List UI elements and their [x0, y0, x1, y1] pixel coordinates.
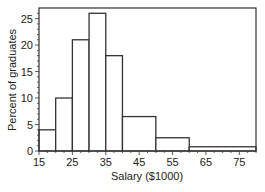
x-tick-label: 25 [66, 156, 78, 168]
y-tick-label: 5 [27, 119, 33, 131]
x-axis: 15253545556575 [33, 151, 256, 168]
y-axis-label: Percent of graduates [6, 28, 18, 131]
y-tick-label: 10 [21, 92, 33, 104]
x-tick-label: 65 [200, 156, 212, 168]
histogram-bar [156, 138, 189, 151]
y-axis: 0510152025 [21, 13, 39, 157]
histogram-bar [39, 130, 56, 151]
y-tick-label: 25 [21, 13, 33, 25]
x-axis-label: Salary ($1000) [111, 170, 183, 182]
x-tick-label: 55 [166, 156, 178, 168]
x-tick-label: 45 [133, 156, 145, 168]
histogram-bar [122, 117, 155, 151]
histogram-bar [72, 40, 89, 151]
y-tick-label: 15 [21, 66, 33, 78]
y-tick-label: 20 [21, 39, 33, 51]
histogram-bar [89, 13, 106, 151]
histogram-bars [39, 13, 256, 151]
x-tick-label: 75 [233, 156, 245, 168]
histogram-bar [56, 98, 73, 151]
x-tick-label: 15 [33, 156, 45, 168]
histogram-bar [106, 56, 123, 151]
histogram-bar [189, 147, 256, 151]
histogram-chart: 0510152025 15253545556575 Salary ($1000)… [0, 0, 265, 192]
x-tick-label: 35 [100, 156, 112, 168]
